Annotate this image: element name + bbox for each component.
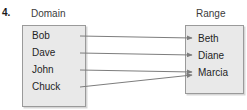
mapping-arrow-chuck-to-marcia <box>80 75 192 87</box>
mapping-arrow-dave-to-diane <box>80 53 192 55</box>
mapping-arrow-bob-to-beth <box>80 36 192 38</box>
relation-mapping-diagram: 4. Domain Range Bob Dave John Chuck Beth… <box>0 0 247 110</box>
mapping-arrow-layer <box>0 0 247 110</box>
mapping-arrow-john-to-marcia <box>80 70 192 72</box>
